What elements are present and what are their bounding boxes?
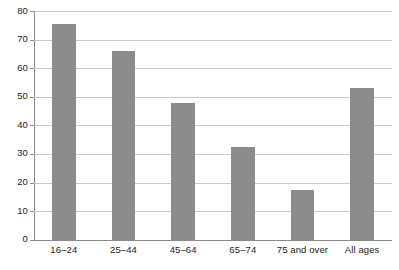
y-axis-labels: 80 70 60 50 40 30 20 10 0 xyxy=(0,0,28,270)
bar-4 xyxy=(231,147,255,240)
bar-3 xyxy=(171,103,195,240)
bar-5 xyxy=(291,190,315,240)
y-tick-label-80: 80 xyxy=(2,6,28,16)
x-axis-baseline xyxy=(34,240,392,241)
plot-area xyxy=(34,11,392,240)
x-tick-label-2: 25–44 xyxy=(94,244,154,255)
clipped-caption-strip: · ·· · ·· · ··· · ·· ·· · ·· xyxy=(2,262,397,270)
y-tick-label-0: 0 xyxy=(2,234,28,244)
y-tick-label-10: 10 xyxy=(2,206,28,216)
bars-layer xyxy=(34,11,392,240)
x-tick-label-3: 45–64 xyxy=(153,244,213,255)
x-tick-label-4: 65–74 xyxy=(213,244,273,255)
x-axis-labels: 16–2425–4445–6465–7475 and overAll ages xyxy=(34,244,392,260)
clipped-caption-text: · ·· · ·· · ··· · ·· ·· · ·· xyxy=(2,262,76,266)
y-tick-label-30: 30 xyxy=(2,148,28,158)
bar-1 xyxy=(52,24,76,240)
y-tick-label-60: 60 xyxy=(2,63,28,73)
x-tick-label-5: 75 and over xyxy=(273,244,333,255)
bar-2 xyxy=(112,51,136,240)
bar-6 xyxy=(350,88,374,240)
x-tick-label-1: 16–24 xyxy=(34,244,94,255)
y-tick-label-20: 20 xyxy=(2,177,28,187)
y-tick-label-50: 50 xyxy=(2,91,28,101)
bar-chart: 80 70 60 50 40 30 20 10 0 16–2425–44 xyxy=(0,0,399,270)
y-tick-label-70: 70 xyxy=(2,34,28,44)
y-tick-label-40: 40 xyxy=(2,120,28,130)
x-tick-label-6: All ages xyxy=(332,244,392,255)
